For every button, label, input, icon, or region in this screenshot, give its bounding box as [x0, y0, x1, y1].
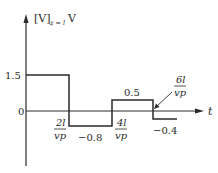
x-tick-6l-denominator: vp [174, 87, 187, 98]
voltage-waveform [26, 75, 177, 126]
x-tick-2l-denominator: vp [54, 130, 67, 141]
x-tick-4l-numerator: 4l [116, 117, 127, 128]
value-neg-0.8: −0.8 [78, 132, 102, 143]
pointer-line [156, 92, 172, 107]
y-tick-1.5: 1.5 [5, 70, 21, 81]
svg-text:V: V [67, 12, 77, 25]
svg-text:z = l: z = l [49, 19, 65, 27]
value-0.5: 0.5 [124, 87, 140, 98]
x-tick-6l-numerator: 6l [176, 74, 186, 85]
t-axis-arrow-icon [195, 109, 204, 114]
svg-text:[V]: [V] [34, 12, 51, 25]
x-tick-4l-denominator: vp [115, 130, 128, 141]
value-neg-0.4: −0.4 [153, 125, 177, 136]
y-axis-label-main: [V] [34, 12, 51, 25]
y-axis-label-subscript: z = l [49, 19, 65, 27]
x-tick-2l-numerator: 2l [55, 117, 66, 128]
y-tick-0: 0 [18, 106, 24, 117]
voltage-waveform-diagram: [V] z = l V t 1.5 0 −0.8 0.5 −0.4 2l vp … [0, 0, 218, 173]
y-axis-arrow-icon [24, 14, 29, 23]
t-axis-label: t [208, 105, 213, 118]
y-axis-label-unit: V [67, 12, 77, 25]
